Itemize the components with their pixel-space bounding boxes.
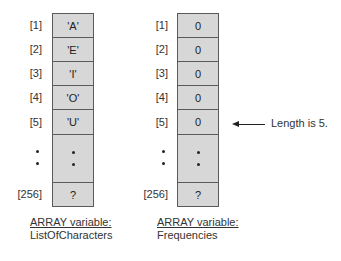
left-index-5: [5] — [12, 116, 42, 128]
left-index-ellipsis-dot — [36, 150, 39, 153]
right-array-caption: ARRAY variable: Frequencies — [157, 216, 239, 242]
ellipsis-dot — [197, 163, 200, 166]
right-cell-ellipsis — [177, 134, 219, 183]
right-index-1: [1] — [138, 19, 168, 31]
left-cell-256: ? — [52, 182, 94, 207]
left-index-2: [2] — [12, 43, 42, 55]
left-caption-name: ListOfCharacters — [30, 229, 113, 242]
right-index-ellipsis-dot — [162, 162, 165, 165]
right-cell-4: 0 — [177, 85, 219, 110]
left-array-caption: ARRAY variable: ListOfCharacters — [30, 216, 113, 242]
right-index-5: [5] — [138, 116, 168, 128]
left-index-3: [3] — [12, 67, 42, 79]
left-index-4: [4] — [12, 91, 42, 103]
left-cell-1: 'A' — [52, 13, 94, 38]
right-cell-2: 0 — [177, 37, 219, 62]
arrow-line — [238, 124, 265, 125]
right-index-ellipsis-dot — [162, 150, 165, 153]
right-cell-256: ? — [177, 182, 219, 207]
right-caption-heading: ARRAY variable: — [157, 216, 239, 229]
length-label: Length is 5. — [271, 117, 328, 129]
right-cell-5: 0 — [177, 109, 219, 135]
right-index-256: [256] — [138, 188, 168, 200]
right-index-3: [3] — [138, 67, 168, 79]
right-cell-3: 0 — [177, 61, 219, 86]
left-cell-5: 'U' — [52, 109, 94, 135]
left-index-ellipsis-dot — [36, 162, 39, 165]
right-cell-1: 0 — [177, 13, 219, 38]
left-cell-4: 'O' — [52, 85, 94, 110]
left-cell-3: 'I' — [52, 61, 94, 86]
left-cell-ellipsis — [52, 134, 94, 183]
right-index-4: [4] — [138, 91, 168, 103]
right-index-2: [2] — [138, 43, 168, 55]
ellipsis-dot — [72, 163, 75, 166]
right-caption-name: Frequencies — [157, 229, 239, 242]
left-caption-heading: ARRAY variable: — [30, 216, 113, 229]
left-index-256: [256] — [12, 188, 42, 200]
left-index-1: [1] — [12, 19, 42, 31]
left-cell-2: 'E' — [52, 37, 94, 62]
ellipsis-dot — [197, 151, 200, 154]
ellipsis-dot — [72, 151, 75, 154]
